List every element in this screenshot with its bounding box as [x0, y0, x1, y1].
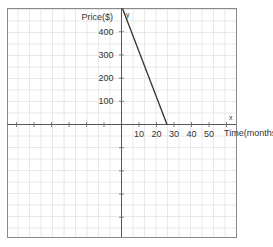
price-time-chart: 1020304050100200300400 Price($) y x Time… [0, 0, 273, 247]
x-tick-label: 10 [134, 129, 144, 139]
x-tick-label: 20 [151, 129, 161, 139]
y-tick-label: 400 [98, 27, 113, 37]
y-tick-label: 200 [98, 73, 113, 83]
x-tick-label: 30 [169, 129, 179, 139]
y-tick-label: 100 [98, 96, 113, 106]
x-tick-label: 50 [204, 129, 214, 139]
y-axis-title: Price($) [81, 12, 113, 22]
x-axis-letter: x [229, 114, 233, 121]
x-axis-title: Time(months) [224, 128, 273, 138]
x-tick-label: 40 [186, 129, 196, 139]
y-tick-label: 300 [98, 50, 113, 60]
